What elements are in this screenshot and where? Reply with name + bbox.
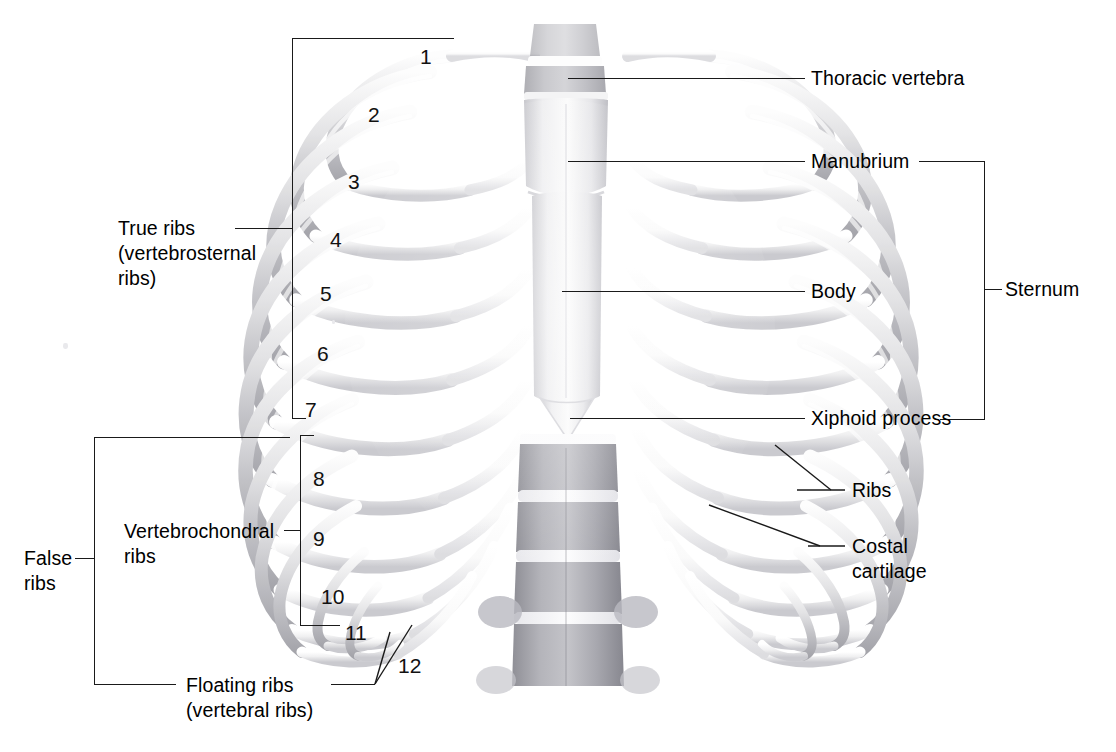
false-ribs-label: Falseribs — [24, 546, 72, 596]
true-ribs-label-line2: (vertebrosternal — [118, 242, 256, 264]
false-ribs-label-line2: ribs — [24, 572, 56, 594]
scan-artifact — [63, 343, 68, 349]
ribs-left-side — [246, 52, 534, 663]
thoracic-vertebra-label: Thoracic vertebra — [811, 66, 964, 91]
thoracic-vertebra-leader — [568, 78, 805, 79]
true-ribs-label-line3: ribs) — [118, 267, 156, 289]
vertebrochondral-bracket-top-arm — [300, 435, 314, 436]
rib-cage-illustration — [0, 0, 1116, 752]
costal-cartilage-label: Costalcartilage — [852, 534, 927, 584]
sternum-bracket-top-arm — [919, 161, 985, 162]
vertebrochondral-ribs-label: Vertebrochondralribs — [124, 519, 274, 569]
false-ribs-bracket-top-arm — [94, 437, 290, 438]
rib-number-12: 12 — [398, 655, 421, 676]
rib-number-2: 2 — [368, 104, 380, 125]
floating-ribs-leader — [331, 684, 375, 685]
rib-cage-figure: True ribs(vertebrosternalribs) Falseribs… — [0, 0, 1116, 752]
true-ribs-label-line1: True ribs — [118, 217, 195, 239]
sternum-label: Sternum — [1005, 277, 1079, 302]
true-ribs-label: True ribs(vertebrosternalribs) — [118, 216, 256, 291]
vertebral-column-illustration — [476, 434, 660, 694]
rib-number-9: 9 — [313, 528, 325, 549]
xiphoid-process-label: Xiphoid process — [811, 406, 951, 431]
ribs-label: Ribs — [852, 478, 891, 503]
rib-number-6: 6 — [317, 343, 329, 364]
costal-cartilage-label-line2: cartilage — [852, 560, 927, 582]
vertebrochondral-label-line2: ribs — [124, 545, 156, 567]
rib-number-4: 4 — [330, 229, 342, 250]
true-ribs-bracket-top-arm — [292, 38, 454, 39]
rib-number-3: 3 — [348, 171, 360, 192]
true-ribs-bracket-bottom-arm — [292, 418, 306, 419]
vertebrochondral-bracket-bottom-arm — [300, 625, 340, 626]
vertebrochondral-leader — [284, 530, 301, 531]
false-ribs-leader — [75, 558, 95, 559]
floating-ribs-label: Floating ribs(vertebral ribs) — [186, 673, 313, 723]
sternum-illustration — [524, 24, 608, 440]
costal-cartilage-label-line1: Costal — [852, 535, 908, 557]
false-ribs-bracket-spine — [94, 437, 95, 685]
rib-number-5: 5 — [320, 283, 332, 304]
rib-number-10: 10 — [321, 586, 344, 607]
scan-artifact — [332, 320, 335, 324]
rib-number-11: 11 — [345, 622, 367, 643]
rib-number-1: 1 — [420, 46, 432, 67]
body-leader — [562, 291, 805, 292]
floating-ribs-pointer-lines — [0, 0, 1116, 752]
floating-ribs-label-line2: (vertebral ribs) — [186, 699, 313, 721]
manubrium-label: Manubrium — [811, 149, 909, 174]
rib-number-7: 7 — [305, 399, 317, 420]
floating-ribs-label-line1: Floating ribs — [186, 674, 294, 696]
xiphoid-process-leader — [570, 418, 805, 419]
false-ribs-label-line1: False — [24, 547, 72, 569]
sternum-leader — [985, 289, 1002, 290]
manubrium-leader — [568, 161, 805, 162]
vertebrochondral-label-line1: Vertebrochondral — [124, 520, 274, 542]
false-ribs-bracket-bottom-arm — [94, 684, 176, 685]
body-label: Body — [811, 279, 856, 304]
rib-number-8: 8 — [313, 468, 325, 489]
sternum-bracket-spine — [984, 161, 985, 420]
